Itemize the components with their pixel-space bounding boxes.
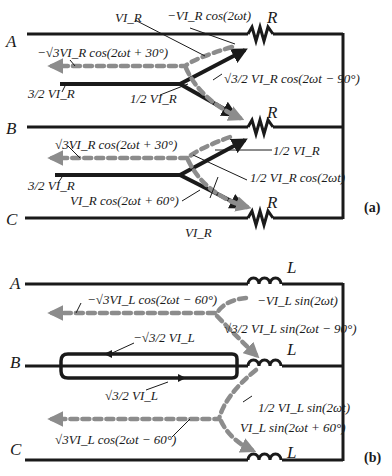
node-label-b: B [10, 353, 21, 372]
resistor-label: R [266, 8, 278, 27]
panel-caption-b: (b) [364, 450, 381, 466]
inductor-label: L [286, 340, 296, 359]
label-vi-bottom: VI_R [185, 225, 212, 240]
resistor-label: R [266, 103, 278, 122]
label-sqrt3-half-cos-m90: √3/2 VI_R cos(2ωt − 90°) [224, 71, 360, 86]
leader-line [243, 396, 252, 402]
panel-a: A B C R R R VI_R −VI_R cos(2ωt) −√3VI_R … [5, 8, 381, 240]
node-label-b: B [6, 119, 17, 138]
loop-arrow-right-icon [178, 374, 186, 382]
label-sqrt3-cos-m60: √3VI_L cos(2ωt − 60°) [55, 432, 176, 447]
label-half-vi-mid: 1/2 VI_R [130, 91, 177, 106]
leader-line [190, 28, 235, 44]
node-label-c: C [10, 440, 22, 459]
leader-line [182, 190, 200, 201]
label-half-vi-cos: 1/2 VI_R cos(2ωt) [250, 170, 345, 185]
resistor-icon [248, 27, 273, 41]
label-neg-vi-sin: −VI_L sin(2ωt) [257, 293, 338, 308]
label-sqrt3-half: √3/2 VI_L [105, 388, 158, 403]
label-vi-cos60: VI_R cos(2ωt + 60°) [70, 193, 179, 208]
label-vi-top: VI_R [115, 10, 142, 25]
label-half-sin: 1/2 VI_L sin(2ωt) [258, 400, 350, 415]
leader-line [193, 155, 247, 180]
resistor-icon [248, 120, 273, 134]
inductor-label: L [286, 258, 296, 277]
power-flow-diagram: A B C R R R VI_R −VI_R cos(2ωt) −√3VI_R … [0, 0, 392, 476]
resistor-icon [248, 211, 273, 225]
inductor-icon [248, 454, 281, 460]
inductor-label: L [286, 443, 296, 462]
node-label-a: A [5, 32, 17, 51]
label-neg-sqrt3-cos-m60: −√3VI_L cos(2ωt − 60°) [87, 292, 217, 307]
label-neg-vi-cos: −VI_R cos(2ωt) [167, 8, 251, 23]
inductor-icon [248, 360, 281, 366]
node-label-c: C [6, 210, 18, 229]
label-three-half-bottom: 3/2 VI_R [27, 178, 75, 193]
leader-line [213, 74, 222, 80]
panel-b: A B C L L L −√3VI_L cos(2ωt − 60°) −VI_L… [9, 258, 381, 466]
label-sqrt3-cos30: √3VI_R cos(2ωt + 30°) [55, 137, 177, 152]
label-neg-sqrt3-cos30: −√3VI_R cos(2ωt + 30°) [37, 45, 168, 60]
panel-caption-a: (a) [364, 200, 381, 216]
label-sqrt3-half-sin-m90: √3/2 VI_L sin(2ωt − 90°) [224, 321, 357, 336]
label-half-vi-right: 1/2 VI_R [273, 143, 320, 158]
inductor-icon [248, 278, 281, 284]
resistor-label: R [266, 193, 278, 212]
label-vi-sin60: VI_L sin(2ωt + 60°) [240, 420, 346, 435]
label-three-half-top: 3/2 VI_R [27, 86, 75, 101]
node-label-a: A [9, 274, 21, 293]
label-neg-sqrt3-half: −√3/2 VI_L [133, 330, 195, 345]
